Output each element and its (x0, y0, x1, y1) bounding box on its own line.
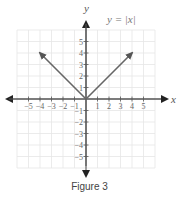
x-tick-label: −2 (59, 102, 68, 111)
y-tick-label: 3 (79, 61, 83, 70)
y-tick-label: 5 (79, 38, 83, 47)
y-tick-label: −4 (74, 141, 83, 150)
y-tick-label: −3 (74, 130, 83, 139)
function-label: y = |x| (106, 13, 136, 25)
y-tick-label: −2 (74, 118, 83, 127)
x-tick-label: 2 (107, 102, 111, 111)
x-tick-label: 4 (130, 102, 134, 111)
x-tick-label: −4 (36, 102, 45, 111)
x-axis-label: x (170, 93, 176, 105)
x-tick-label: 1 (96, 102, 100, 111)
x-tick-label: −5 (24, 102, 33, 111)
y-tick-label: 1 (79, 84, 83, 93)
series-vertex-point (85, 98, 87, 100)
y-tick-label: 4 (79, 49, 83, 58)
figure-caption: Figure 3 (0, 181, 179, 192)
chart: −5−4−3−2−112345−5−4−3−2−112345 x y y = |… (0, 0, 179, 178)
y-axis-label: y (83, 2, 89, 14)
x-tick-label: 3 (119, 102, 123, 111)
y-tick-label: −1 (74, 107, 83, 116)
y-tick-label: 2 (79, 72, 83, 81)
x-tick-label: 5 (142, 102, 146, 111)
y-tick-label: −5 (74, 153, 83, 162)
x-tick-label: −3 (47, 102, 56, 111)
